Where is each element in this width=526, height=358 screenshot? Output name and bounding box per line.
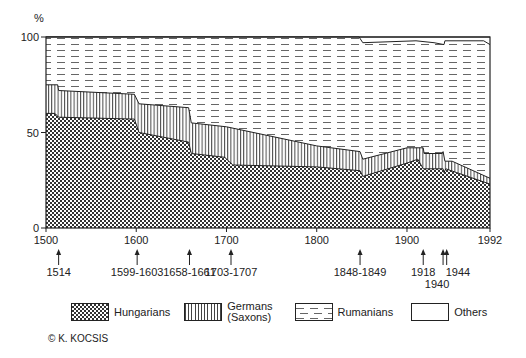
stacked-area-chart: 050100150016001700180019001992 15141599-…: [0, 0, 526, 300]
legend-label: Hungarians: [114, 307, 170, 318]
legend-item-crosshatch: Hungarians: [71, 303, 170, 321]
event-label: 1848-1849: [334, 266, 387, 278]
legend-swatch: [295, 303, 333, 321]
legend-swatch: [411, 303, 449, 321]
arrow-head-icon: [358, 249, 363, 255]
event-label: 1703-1707: [205, 266, 258, 278]
legend-label: Germans (Saxons): [227, 301, 272, 323]
arrow-head-icon: [444, 249, 449, 255]
y-tick-label: 0: [33, 222, 39, 234]
event-label: 1918: [411, 266, 435, 278]
y-axis-unit-label: %: [34, 12, 44, 24]
legend-label: Others: [454, 307, 487, 318]
x-tick-label: 1900: [395, 234, 419, 246]
legend-item-vertical-lines: Germans (Saxons): [184, 301, 272, 323]
credit-text: © K. KOCSIS: [48, 333, 108, 344]
legend-swatch: [184, 303, 222, 321]
event-markers: 15141599-16031658-16611703-17071848-1849…: [46, 249, 470, 290]
event-label: 1944: [446, 266, 470, 278]
arrow-head-icon: [135, 249, 140, 255]
legend-label: Rumanians: [338, 307, 394, 318]
event-label: 1514: [46, 266, 70, 278]
y-tick-label: 100: [21, 31, 39, 43]
event-label: 1940: [425, 278, 449, 290]
x-tick-label: 1600: [124, 234, 148, 246]
event-label: 1599-1603: [111, 266, 164, 278]
arrow-head-icon: [187, 249, 192, 255]
x-tick-label: 1700: [214, 234, 238, 246]
legend-swatch: [71, 303, 109, 321]
arrow-head-icon: [56, 249, 61, 255]
x-tick-label: 1500: [34, 234, 58, 246]
arrow-head-icon: [229, 249, 234, 255]
x-tick-label: 1800: [304, 234, 328, 246]
x-tick-label: 1992: [478, 234, 502, 246]
legend: HungariansGermans (Saxons)RumaniansOther…: [71, 300, 501, 324]
legend-item-none: Others: [411, 303, 487, 321]
legend-item-dashes: Rumanians: [295, 303, 394, 321]
area-layers: [46, 37, 490, 228]
y-tick-label: 50: [27, 127, 39, 139]
arrow-head-icon: [421, 249, 426, 255]
